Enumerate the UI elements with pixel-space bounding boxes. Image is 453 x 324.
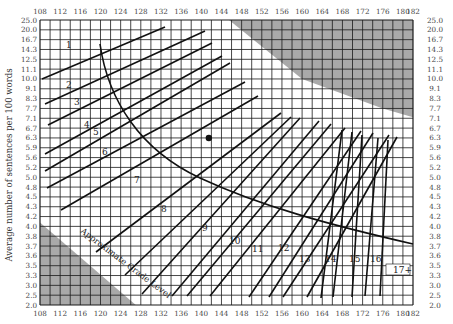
y-tick-right: 4.5 xyxy=(429,192,441,201)
x-axis-bottom-ticks: 1081121161201241281321361401441481521561… xyxy=(33,309,420,318)
y-tick-left: 5.0 xyxy=(26,173,38,182)
y-tick-left: 14.3 xyxy=(21,45,37,54)
grade-label: 16 xyxy=(370,254,382,264)
y-tick-left: 5.9 xyxy=(26,143,38,152)
y-tick-right: 3.0 xyxy=(429,281,441,290)
y-tick-left: 11.1 xyxy=(21,65,37,74)
y-tick-left: 16.7 xyxy=(21,35,37,44)
x-tick-top: 116 xyxy=(73,7,87,16)
y-tick-right: 2.0 xyxy=(429,301,441,310)
y-tick-left: 3.8 xyxy=(26,232,38,241)
y-tick-left: 7.7 xyxy=(26,104,38,113)
y-tick-right: 3.7 xyxy=(429,242,441,251)
x-tick-top: 182 xyxy=(406,7,420,16)
grade-label: 13 xyxy=(299,254,311,264)
grade-label: 11 xyxy=(252,244,263,254)
x-tick-top: 136 xyxy=(174,7,188,16)
x-axis-top-ticks: 1081121161201241281321361401441481521561… xyxy=(33,7,420,16)
grade-label: 12 xyxy=(278,243,289,253)
y-tick-left: 8.3 xyxy=(26,94,38,103)
x-tick-bottom: 168 xyxy=(336,309,350,318)
x-tick-bottom: 144 xyxy=(215,309,229,318)
y-tick-left: 4.2 xyxy=(26,212,37,221)
y-tick-left: 9.1 xyxy=(26,84,37,93)
x-tick-bottom: 112 xyxy=(53,309,67,318)
y-tick-left: 4.3 xyxy=(26,202,38,211)
y-tick-right: 8.3 xyxy=(429,94,441,103)
y-tick-right: 10.0 xyxy=(427,74,443,83)
y-tick-right: 4.2 xyxy=(429,212,440,221)
y-tick-left: 3.7 xyxy=(26,242,38,251)
y-tick-right: 25.0 xyxy=(427,16,443,25)
x-tick-top: 120 xyxy=(94,7,108,16)
y-tick-left: 25.0 xyxy=(21,16,37,25)
y-axis-right-ticks: 25.020.016.714.312.511.110.09.18.37.77.1… xyxy=(427,16,443,310)
y-tick-left: 3.3 xyxy=(26,271,38,280)
y-tick-right: 14.3 xyxy=(427,45,443,54)
y-tick-left: 3.0 xyxy=(26,281,38,290)
y-tick-right: 3.6 xyxy=(429,251,441,260)
x-tick-bottom: 108 xyxy=(33,309,47,318)
y-tick-right: 3.3 xyxy=(429,271,441,280)
x-tick-bottom: 164 xyxy=(315,309,329,318)
y-tick-left: 4.0 xyxy=(26,222,38,231)
y-tick-right: 4.0 xyxy=(429,222,441,231)
y-tick-right: 4.8 xyxy=(429,183,441,192)
x-tick-bottom: 148 xyxy=(235,309,249,318)
x-tick-bottom: 116 xyxy=(73,309,87,318)
x-tick-top: 112 xyxy=(53,7,67,16)
x-tick-top: 132 xyxy=(154,7,168,16)
y-tick-right: 6.7 xyxy=(429,124,441,133)
y-tick-right: 16.7 xyxy=(427,35,443,44)
x-tick-bottom: 124 xyxy=(114,309,128,318)
y-tick-right: 7.7 xyxy=(429,104,441,113)
y-tick-left: 4.5 xyxy=(26,192,38,201)
x-tick-top: 176 xyxy=(376,7,390,16)
x-tick-bottom: 132 xyxy=(154,309,168,318)
x-tick-bottom: 156 xyxy=(275,309,289,318)
x-tick-bottom: 172 xyxy=(356,309,370,318)
grade-label: 3 xyxy=(74,97,80,107)
y-tick-left: 4.8 xyxy=(26,183,38,192)
x-tick-top: 156 xyxy=(275,7,289,16)
x-tick-bottom: 176 xyxy=(376,309,390,318)
grade-label: 1 xyxy=(66,40,72,50)
grade-label: 14 xyxy=(325,254,337,264)
x-tick-top: 140 xyxy=(194,7,208,16)
x-tick-bottom: 160 xyxy=(295,309,309,318)
y-tick-right: 12.5 xyxy=(427,55,443,64)
y-tick-left: 5.6 xyxy=(26,153,38,162)
x-tick-bottom: 128 xyxy=(134,309,148,318)
y-axis-left-ticks: 25.020.016.714.312.511.110.09.18.37.77.1… xyxy=(21,16,37,310)
y-tick-right: 3.8 xyxy=(429,232,441,241)
x-tick-top: 152 xyxy=(255,7,269,16)
y-tick-right: 4.3 xyxy=(429,202,441,211)
y-tick-right: 11.1 xyxy=(427,65,443,74)
grade-label: 15 xyxy=(349,254,361,264)
grade-label: 4 xyxy=(84,120,90,130)
y-tick-right: 3.5 xyxy=(429,261,441,270)
grade-label: 5 xyxy=(93,127,99,137)
grade-label: 10 xyxy=(229,236,241,246)
x-tick-top: 148 xyxy=(235,7,249,16)
y-tick-left: 10.0 xyxy=(21,74,37,83)
grade-label: 2 xyxy=(66,80,72,90)
y-tick-left: 12.5 xyxy=(21,55,37,64)
y-tick-left: 3.5 xyxy=(26,261,38,270)
y-tick-right: 5.2 xyxy=(429,163,440,172)
y-tick-left: 3.6 xyxy=(26,251,38,260)
x-tick-bottom: 152 xyxy=(255,309,269,318)
x-tick-top: 144 xyxy=(215,7,229,16)
y-tick-left: 6.3 xyxy=(26,133,38,142)
x-tick-top: 124 xyxy=(114,7,128,16)
grade-label: 7 xyxy=(134,175,140,185)
y-tick-right: 20.0 xyxy=(427,25,443,34)
y-tick-right: 7.1 xyxy=(429,114,440,123)
y-tick-right: 5.6 xyxy=(429,153,441,162)
grade-label: 9 xyxy=(202,223,208,233)
y-tick-left: 7.1 xyxy=(26,114,37,123)
x-tick-top: 172 xyxy=(356,7,370,16)
y-tick-left: 2.0 xyxy=(26,301,38,310)
x-tick-top: 128 xyxy=(134,7,148,16)
y-tick-left: 20.0 xyxy=(21,25,37,34)
